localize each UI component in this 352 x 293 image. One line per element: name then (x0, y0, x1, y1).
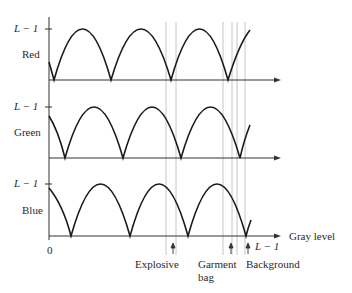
green-label: Green (14, 126, 41, 138)
red-curve (49, 29, 250, 80)
blue-curve (49, 184, 251, 236)
origin-label: 0 (47, 244, 53, 256)
blue-label: Blue (22, 204, 43, 216)
explosive-label: Explosive (135, 258, 179, 270)
red-label: Red (22, 48, 40, 60)
x-max-label: L − 1 (255, 240, 279, 252)
x-axis-title: Gray level (289, 230, 335, 242)
green-curve (49, 107, 250, 158)
annotation-arrows (171, 243, 250, 254)
green-panel (45, 107, 281, 161)
blue-lmax-label: L − 1 (14, 177, 38, 189)
background-label: Background (246, 258, 300, 270)
red-lmax-label: L − 1 (14, 22, 38, 34)
blue-panel (45, 184, 281, 239)
green-lmax-label: L − 1 (14, 100, 38, 112)
garment-label-line2: bag (198, 271, 214, 283)
red-panel (45, 29, 281, 83)
garment-label-line1: Garment (198, 258, 236, 270)
